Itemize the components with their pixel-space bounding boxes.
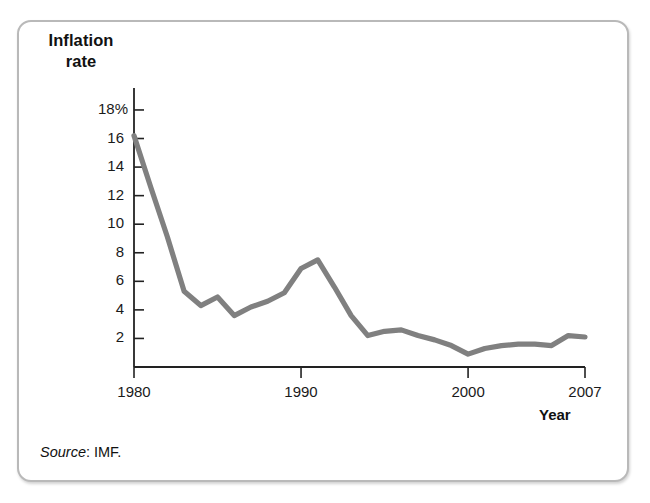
y-tick-label: 10 bbox=[78, 214, 124, 231]
y-tick-label: 16 bbox=[78, 129, 124, 146]
y-tick-label: 14 bbox=[78, 157, 124, 174]
x-tick-label: 2000 bbox=[433, 383, 503, 400]
chart-series bbox=[134, 136, 585, 354]
source-note: Source: IMF. bbox=[40, 444, 121, 460]
y-tick-label: 18% bbox=[78, 100, 128, 117]
y-tick-label: 6 bbox=[78, 271, 124, 288]
x-tick-label: 1980 bbox=[99, 383, 169, 400]
x-tick-label: 1990 bbox=[266, 383, 336, 400]
y-tick-label: 8 bbox=[78, 243, 124, 260]
source-value: : IMF. bbox=[86, 444, 121, 460]
y-tick-label: 2 bbox=[78, 328, 124, 345]
source-label: Source bbox=[40, 444, 86, 460]
y-tick-label: 12 bbox=[78, 186, 124, 203]
chart-axes bbox=[134, 88, 585, 378]
x-tick-label: 2007 bbox=[550, 383, 620, 400]
figure-container: Inflation rate 24681012141618% 198019902… bbox=[0, 0, 650, 503]
x-axis-title: Year bbox=[539, 406, 571, 423]
y-tick-label: 4 bbox=[78, 300, 124, 317]
inflation-rate-line bbox=[134, 136, 585, 354]
